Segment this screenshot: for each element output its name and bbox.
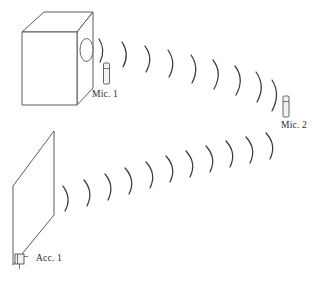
wave-arc	[272, 80, 277, 111]
microphone-1	[104, 63, 110, 84]
wave-arc	[145, 46, 150, 72]
box-front-face	[22, 32, 77, 105]
panel-face	[13, 131, 54, 265]
wave-arc	[213, 60, 218, 89]
wave-arc	[206, 146, 213, 172]
accelerometer-1-label: Acc. 1	[36, 253, 62, 263]
acoustic-measurement-diagram: Mic. 1 Mic. 2 Acc. 1	[0, 0, 319, 295]
wave-arc	[166, 156, 173, 182]
microphone-2-label: Mic. 2	[281, 120, 307, 130]
wave-arc	[125, 168, 132, 194]
microphone-2-body	[283, 96, 289, 117]
lower-wave-train	[63, 133, 273, 211]
wave-arc	[186, 151, 193, 177]
wave-arc	[63, 186, 68, 211]
speaker-port-ellipse	[80, 39, 93, 62]
wave-arc	[99, 39, 103, 62]
wave-arc	[191, 55, 196, 83]
wave-arc	[256, 72, 261, 102]
speaker-enclosure-box	[22, 12, 93, 105]
accelerometer-1	[15, 254, 28, 269]
wave-arc	[246, 137, 253, 163]
wave-arc	[122, 42, 126, 67]
wave-arc	[84, 180, 90, 206]
wave-arc	[168, 50, 173, 77]
accelerometer-1-body	[15, 254, 24, 264]
microphone-2	[283, 96, 289, 117]
wave-arc	[105, 174, 111, 200]
wave-arc	[146, 162, 153, 188]
microphone-1-label: Mic. 1	[92, 89, 118, 99]
wave-arc	[226, 141, 233, 167]
diagram-canvas	[0, 0, 319, 295]
microphone-1-body	[104, 63, 110, 84]
wave-arc	[235, 66, 240, 95]
wave-arc	[266, 133, 273, 159]
panel-parallelogram	[13, 131, 54, 265]
upper-wave-train	[99, 39, 277, 111]
